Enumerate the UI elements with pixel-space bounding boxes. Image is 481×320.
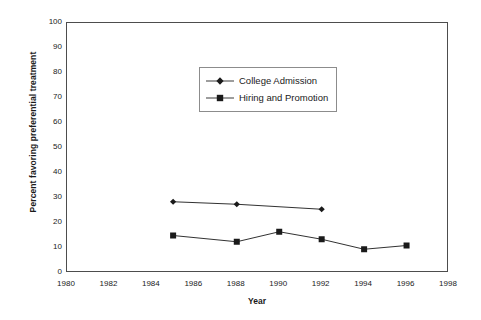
x-axis-tick-label: 1992 <box>301 280 341 288</box>
square-marker-icon <box>205 91 235 105</box>
x-axis-tick-label: 1982 <box>88 280 128 288</box>
y-axis-tick-label: 50 <box>22 143 62 151</box>
x-axis-tick-label: 1988 <box>216 280 256 288</box>
series-2 <box>170 229 409 253</box>
y-axis-tick-label: 100 <box>22 18 62 26</box>
data-point-marker <box>319 236 325 242</box>
data-point-marker <box>404 243 410 249</box>
y-axis-tick-label: 60 <box>22 118 62 126</box>
data-point-marker <box>170 199 176 205</box>
x-axis-tick-label: 1986 <box>173 280 213 288</box>
data-point-marker <box>234 201 240 207</box>
y-axis-tick-label: 40 <box>22 168 62 176</box>
x-axis-tick-label: 1998 <box>428 280 468 288</box>
data-point-marker <box>234 239 240 245</box>
legend-item-college-admission: College Admission <box>205 72 328 89</box>
plot-area <box>66 22 448 272</box>
series-canvas <box>67 23 449 273</box>
x-axis-title: Year <box>66 296 448 306</box>
series-line <box>173 232 406 250</box>
data-point-marker <box>276 229 282 235</box>
legend-item-hiring-and-promotion: Hiring and Promotion <box>205 89 328 106</box>
y-axis-tick-label: 80 <box>22 68 62 76</box>
series-1 <box>170 199 325 213</box>
legend-label: Hiring and Promotion <box>239 92 328 103</box>
x-axis-tick-label: 1980 <box>46 280 86 288</box>
x-axis-tick-label: 1990 <box>258 280 298 288</box>
y-axis-tick-label: 20 <box>22 218 62 226</box>
x-axis-tick-labels: 1980198219841986198819901992199419961998 <box>66 280 448 294</box>
x-axis-tick-label: 1994 <box>343 280 383 288</box>
data-point-marker <box>361 246 367 252</box>
y-axis-tick-label: 30 <box>22 193 62 201</box>
x-axis-tick-label: 1996 <box>386 280 426 288</box>
y-axis-tick-label: 90 <box>22 43 62 51</box>
diamond-marker-icon <box>205 74 235 88</box>
chart-legend: College Admission Hiring and Promotion <box>199 67 337 112</box>
data-point-marker <box>170 233 176 239</box>
data-point-marker <box>319 206 325 212</box>
y-axis-tick-label: 10 <box>22 243 62 251</box>
legend-label: College Admission <box>239 75 317 86</box>
series-line <box>173 202 322 210</box>
y-axis-tick-label: 70 <box>22 93 62 101</box>
y-axis-tick-labels: 0102030405060708090100 <box>18 22 62 272</box>
chart-figure: Percent favoring preferential treatment … <box>0 0 481 320</box>
y-axis-tick-label: 0 <box>22 268 62 276</box>
x-axis-tick-label: 1984 <box>131 280 171 288</box>
